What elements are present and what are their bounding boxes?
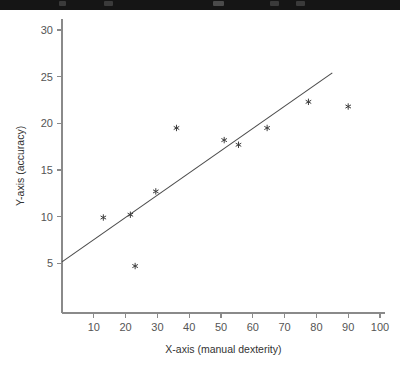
x-axis-ticks: 102030405060708090100 [88,313,390,333]
axes [62,19,385,313]
y-tick-label: 10 [41,211,53,223]
y-axis-label: Y-axis (accuracy) [14,126,26,206]
y-tick-label: 25 [41,71,53,83]
data-point-marker [306,99,312,105]
x-tick-label: 70 [278,321,290,333]
y-tick-label: 20 [41,117,53,129]
data-points [101,99,351,270]
data-point-marker [174,125,180,131]
x-tick-label: 100 [371,321,389,333]
data-point-marker [132,263,138,269]
data-point-marker [153,188,159,194]
data-point-marker [221,137,227,143]
y-axis-ticks: 51015202530 [41,24,62,269]
chart-canvas: 51015202530 102030405060708090100 X-axis… [0,0,400,369]
regression-line [62,73,332,262]
x-axis-label: X-axis (manual dexterity) [165,343,281,355]
x-tick-label: 20 [119,321,131,333]
screenshot-root: 51015202530 102030405060708090100 X-axis… [0,0,400,369]
data-point-marker [101,214,107,220]
data-point-marker [264,125,270,131]
x-tick-label: 80 [310,321,322,333]
x-tick-label: 90 [342,321,354,333]
scatter-plot-figure: 51015202530 102030405060708090100 X-axis… [0,10,400,369]
data-point-marker [236,142,242,148]
x-tick-label: 50 [215,321,227,333]
y-tick-label: 15 [41,164,53,176]
x-tick-label: 60 [247,321,259,333]
data-point-marker [345,103,351,109]
trendline [62,73,332,262]
y-tick-label: 5 [47,257,53,269]
y-tick-label: 30 [41,24,53,36]
x-tick-label: 30 [151,321,163,333]
x-tick-label: 10 [88,321,100,333]
x-tick-label: 40 [183,321,195,333]
